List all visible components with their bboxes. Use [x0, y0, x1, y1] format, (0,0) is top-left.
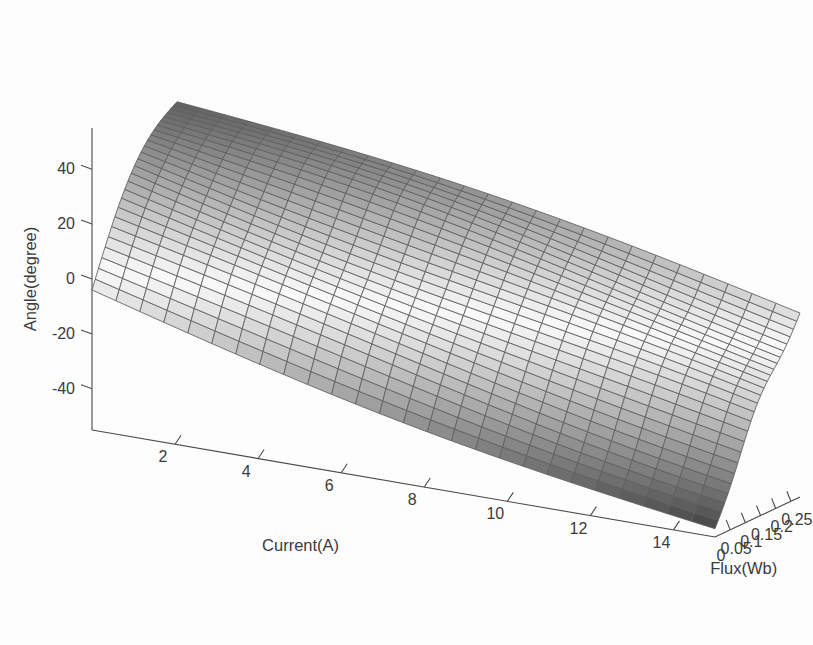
x-tick-label: 4 — [242, 463, 251, 480]
surface-plot-figure: -40-2002040Angle(degree)2468101214Curren… — [0, 0, 813, 645]
z-tick-label: 20 — [57, 215, 75, 232]
y-axis-label: Flux(Wb) — [710, 559, 777, 577]
z-tick-label: -20 — [52, 325, 75, 342]
x-tick-mark — [341, 464, 347, 473]
y-tick-label: 0.25 — [781, 511, 812, 528]
y-tick-mark — [726, 520, 730, 530]
x-tick-label: 10 — [486, 505, 504, 522]
z-tick-label: 0 — [66, 270, 75, 287]
z-tick-label: -40 — [52, 380, 75, 397]
z-tick-mark — [81, 220, 92, 224]
x-tick-mark — [590, 507, 596, 516]
x-tick-label: 2 — [159, 448, 168, 465]
y-tick-mark — [757, 506, 761, 516]
surface-mesh — [92, 102, 800, 529]
x-tick-mark — [673, 521, 679, 530]
x-tick-mark — [258, 450, 264, 459]
x-tick-label: 14 — [653, 534, 671, 551]
z-tick-label: 40 — [57, 160, 75, 177]
z-tick-mark — [81, 165, 92, 169]
x-tick-label: 12 — [570, 520, 588, 537]
y-tick-mark — [772, 498, 776, 508]
z-tick-mark — [81, 275, 92, 279]
z-tick-mark — [81, 330, 92, 334]
plot-canvas: -40-2002040Angle(degree)2468101214Curren… — [0, 0, 813, 645]
x-axis-label: Current(A) — [262, 536, 339, 554]
x-tick-label: 6 — [325, 477, 334, 494]
y-tick-mark — [787, 491, 791, 501]
x-tick-mark — [175, 435, 181, 444]
x-tick-mark — [507, 492, 513, 501]
x-tick-label: 8 — [408, 491, 417, 508]
x-tick-mark — [424, 478, 430, 487]
z-axis-label: Angle(degree) — [21, 227, 39, 332]
y-tick-mark — [741, 513, 745, 523]
z-tick-mark — [81, 385, 92, 389]
